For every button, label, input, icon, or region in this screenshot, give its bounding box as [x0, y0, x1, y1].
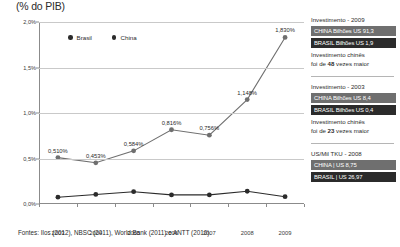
x-tick-mark	[115, 204, 116, 207]
x-tick-mark	[77, 204, 78, 207]
y-tick-mark	[36, 113, 39, 114]
data-point	[245, 189, 250, 194]
y-tick-mark	[36, 67, 39, 68]
chart-title: (% do PIB)	[16, 0, 65, 12]
sidebar-divider	[311, 143, 394, 144]
sidebar-foot-line2: foi de 23 vezes maior	[311, 127, 396, 136]
gridline	[39, 22, 304, 23]
y-tick-label: 0,5%	[23, 156, 36, 162]
sidebar-foot-multiplier: 48	[328, 60, 335, 67]
data-label: 0,816%	[162, 120, 182, 126]
chart-page: (% do PIB) Brasil China 0,0%0,5%1,0%1,5%…	[0, 0, 400, 247]
y-tick-label: 1,0%	[23, 110, 36, 116]
data-point	[283, 35, 288, 40]
data-label: 1,148%	[237, 90, 257, 96]
plot-area: 0,0%0,5%1,0%1,5%2,0%20032004200520062007…	[39, 22, 304, 204]
chart-pane: (% do PIB) Brasil China 0,0%0,5%1,0%1,5%…	[0, 0, 305, 247]
sidebar-block: US/Mil TKU - 2008CHINA | US 8,75BRASIL |…	[311, 150, 396, 182]
sidebar-block-heading: US/Mil TKU - 2008	[311, 150, 396, 157]
sidebar-bar-brasil: BRASIL Bilhões US 0,4	[311, 105, 396, 115]
data-point	[169, 127, 174, 132]
source-note: Fontes: Ilos (2012), NBSC (2011), World …	[18, 229, 211, 236]
data-point	[131, 189, 136, 194]
y-tick-mark	[36, 158, 39, 159]
data-point	[245, 97, 250, 102]
gridline	[39, 68, 304, 69]
sidebar-bar-china: CHINA Bilhões US 91,3	[311, 26, 396, 36]
y-tick-mark	[36, 22, 39, 23]
sidebar-bar-brasil: BRASIL Bilhões US 1,9	[311, 38, 396, 48]
data-label: 0,453%	[86, 153, 106, 159]
data-point	[56, 195, 61, 200]
sidebar-block: Investimento - 2003CHINA Bilhões US 8,4B…	[311, 83, 396, 136]
data-label: 0,510%	[48, 148, 68, 154]
x-tick-mark	[190, 204, 191, 207]
series-line-china	[58, 37, 285, 162]
sidebar-block-heading: Investimento - 2009	[311, 16, 396, 23]
data-point	[93, 160, 98, 165]
sidebar-bar-china: CHINA Bilhões US 8,4	[311, 93, 396, 103]
sidebar-foot-line1: Investimento chinês	[311, 118, 396, 127]
data-point	[169, 193, 174, 198]
sidebar-foot-multiplier: 23	[328, 127, 335, 134]
x-tick-label: 2009	[279, 230, 292, 236]
data-point	[207, 133, 212, 138]
stats-sidebar: Investimento - 2009CHINA Bilhões US 91,3…	[305, 0, 400, 247]
data-label: 1,830%	[275, 27, 295, 33]
data-point	[131, 148, 136, 153]
data-label: 0,584%	[124, 141, 144, 147]
y-tick-label: 0,0%	[23, 201, 36, 207]
x-tick-mark	[228, 204, 229, 207]
gridline	[39, 159, 304, 160]
y-tick-label: 2,0%	[23, 19, 36, 25]
x-tick-mark	[153, 204, 154, 207]
data-label: 0,756%	[200, 125, 220, 131]
sidebar-bar-brasil: BRASIL | US 26,97	[311, 172, 396, 182]
x-tick-mark	[39, 204, 40, 207]
data-point	[93, 192, 98, 197]
x-tick-label: 2008	[241, 230, 254, 236]
sidebar-block-heading: Investimento - 2003	[311, 83, 396, 90]
x-tick-mark	[266, 204, 267, 207]
sidebar-foot-line2: foi de 48 vezes maior	[311, 60, 396, 69]
sidebar-divider	[311, 76, 394, 77]
data-point	[207, 193, 212, 198]
sidebar-block: Investimento - 2009CHINA Bilhões US 91,3…	[311, 16, 396, 69]
sidebar-foot-line1: Investimento chinês	[311, 51, 396, 60]
gridline	[39, 113, 304, 114]
y-tick-label: 1,5%	[23, 65, 36, 71]
sidebar-bar-china: CHINA | US 8,75	[311, 160, 396, 170]
data-point	[283, 194, 288, 199]
